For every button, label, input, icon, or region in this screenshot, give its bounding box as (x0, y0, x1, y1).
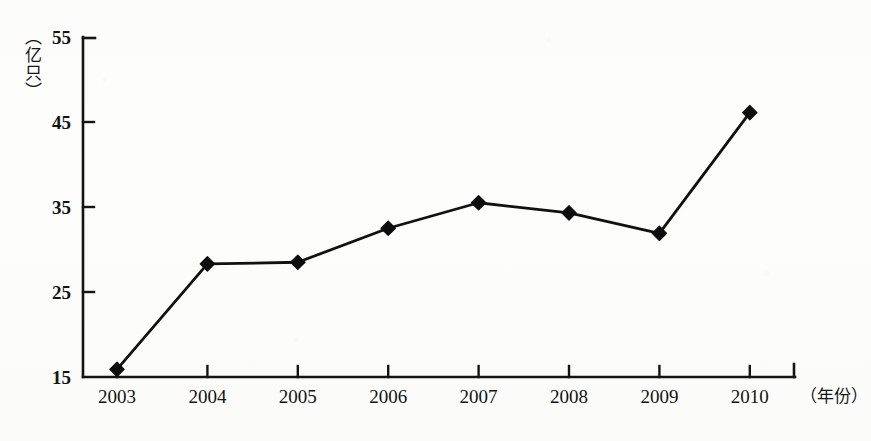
chart-page: （亿只） （年份） 2003: 15.92004: 28.32005: 28.5… (0, 0, 871, 441)
y-ticks-group (83, 122, 94, 292)
data-point-marker: 2006: 32.5 (381, 221, 395, 235)
x-axis-tick-label: 2007 (460, 386, 498, 407)
series-line (117, 113, 750, 370)
data-point-marker: 2007: 35.5 (471, 196, 485, 210)
line-chart: 2003: 15.92004: 28.32005: 28.52006: 32.5… (0, 0, 871, 441)
y-axis-tick-label: 55 (52, 27, 71, 48)
y-tick-labels-group: 1525354555 (52, 27, 71, 388)
y-axis-tick-label: 25 (52, 282, 71, 303)
y-axis-tick-label: 35 (52, 197, 71, 218)
series-markers-group: 2003: 15.92004: 28.32005: 28.52006: 32.5… (110, 105, 757, 376)
x-axis-tick-label: 2010 (731, 386, 769, 407)
y-axis-tick-label: 15 (52, 367, 71, 388)
y-axis-tick-label: 45 (52, 112, 71, 133)
x-axis-tick-label: 2008 (550, 386, 588, 407)
x-axis-tick-label: 2005 (279, 386, 317, 407)
axes-group (83, 37, 795, 377)
x-axis-tick-label: 2009 (640, 386, 678, 407)
data-point-marker: 2005: 28.5 (291, 255, 305, 269)
x-axis-tick-label: 2003 (98, 386, 136, 407)
x-axis-tick-label: 2004 (188, 386, 227, 407)
x-axis-tick-label: 2006 (369, 386, 407, 407)
x-tick-labels-group: 20032004200520062007200820092010 (98, 386, 769, 407)
x-ticks-group (117, 366, 750, 377)
data-point-marker: 2008: 34.3 (562, 206, 576, 220)
series-line-group (117, 113, 750, 370)
